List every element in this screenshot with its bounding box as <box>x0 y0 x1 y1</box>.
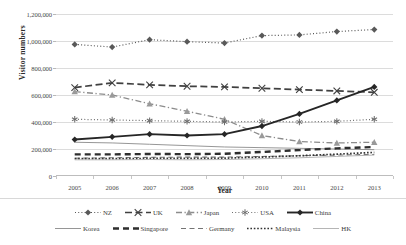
legend-item-hk[interactable]: HK <box>313 224 351 233</box>
legend-key-japan <box>176 208 202 217</box>
legend-item-germany[interactable]: Germany <box>181 224 234 233</box>
data-point-marker <box>109 92 115 98</box>
y-tick-label: 1,000,000 <box>27 38 52 45</box>
x-tick-mark <box>206 176 207 179</box>
legend-label: Malaysia <box>275 225 300 232</box>
y-tick-label: 800,000 <box>31 65 52 72</box>
data-point-marker <box>334 97 340 103</box>
legend-key-singapore <box>113 224 139 233</box>
legend-key-germany <box>181 224 207 233</box>
y-tick-label: 400,000 <box>31 119 52 126</box>
x-tick-mark <box>56 176 57 179</box>
x-tick-mark <box>131 176 132 179</box>
data-point-marker <box>297 209 303 215</box>
legend-item-uk[interactable]: UK <box>125 208 163 217</box>
legend-row-2: KoreaSingaporeGermanyMalaysiaHK <box>0 220 406 236</box>
legend-item-nz[interactable]: NZ <box>75 208 112 217</box>
data-point-marker <box>334 118 340 124</box>
plot-area: 0200,000400,000600,000800,0001,000,0001,… <box>56 14 393 176</box>
x-tick-mark <box>93 176 94 179</box>
data-point-marker <box>296 32 302 38</box>
y-axis-title: Visitor numbers <box>18 0 27 123</box>
legend-key-nz <box>75 208 101 217</box>
data-point-marker <box>334 28 340 34</box>
data-point-marker <box>109 44 115 50</box>
x-tick-mark <box>281 176 282 179</box>
x-tick-mark <box>318 176 319 179</box>
legend-item-japan[interactable]: Japan <box>176 208 219 217</box>
data-point-marker <box>72 41 78 47</box>
y-tick-label: 1,200,000 <box>27 11 52 18</box>
legend-item-china[interactable]: China <box>287 208 331 217</box>
legend-key-china <box>287 208 313 217</box>
data-point-marker <box>72 116 78 122</box>
data-point-marker <box>221 40 227 46</box>
y-tick-label: 0 <box>49 173 52 180</box>
data-point-marker <box>259 123 265 129</box>
legend-label: USA <box>260 209 274 216</box>
data-point-marker <box>259 132 265 138</box>
x-tick-mark <box>168 176 169 179</box>
series-layer <box>56 14 393 176</box>
legend-label: China <box>315 209 331 216</box>
data-point-marker <box>371 84 377 90</box>
x-axis-title: Year <box>56 186 393 195</box>
legend-item-singapore[interactable]: Singapore <box>113 224 169 233</box>
legend-key-korea <box>55 224 81 233</box>
data-point-marker <box>221 131 227 137</box>
legend-item-usa[interactable]: USA <box>232 208 274 217</box>
legend-label: Singapore <box>141 225 169 232</box>
legend-label: NZ <box>103 209 112 216</box>
data-point-marker <box>242 209 248 215</box>
data-point-marker <box>147 131 153 137</box>
legend-label: Japan <box>204 209 219 216</box>
legend-item-korea[interactable]: Korea <box>55 224 100 233</box>
data-point-marker <box>184 132 190 138</box>
legend-item-malaysia[interactable]: Malaysia <box>247 224 300 233</box>
x-tick-mark <box>243 176 244 179</box>
visitor-numbers-line-chart: Visitor numbers 0200,000400,000600,00080… <box>0 0 406 245</box>
data-point-marker <box>296 138 302 144</box>
legend-row-1: NZUKJapanUSAChina <box>0 204 406 220</box>
chart-legend: NZUKJapanUSAChina KoreaSingaporeGermanyM… <box>0 198 406 236</box>
legend-label: Korea <box>83 225 100 232</box>
data-point-marker <box>147 37 153 43</box>
legend-label: Germany <box>209 225 234 232</box>
legend-key-hk <box>313 224 339 233</box>
legend-key-usa <box>232 208 258 217</box>
series-line-singapore <box>75 147 375 154</box>
legend-key-uk <box>125 208 151 217</box>
data-point-marker <box>184 118 190 124</box>
data-point-marker <box>85 209 91 215</box>
data-point-marker <box>109 134 115 140</box>
legend-label: HK <box>341 225 351 232</box>
data-point-marker <box>297 119 303 125</box>
legend-key-malaysia <box>247 224 273 233</box>
data-point-marker <box>259 33 265 39</box>
y-tick-label: 600,000 <box>31 92 52 99</box>
data-point-marker <box>371 26 377 32</box>
legend-label: UK <box>153 209 163 216</box>
y-tick-label: 200,000 <box>31 146 52 153</box>
data-point-marker <box>184 39 190 45</box>
data-point-marker <box>72 136 78 142</box>
x-tick-mark <box>356 176 357 179</box>
data-point-marker <box>296 111 302 117</box>
x-tick-mark <box>393 176 394 179</box>
